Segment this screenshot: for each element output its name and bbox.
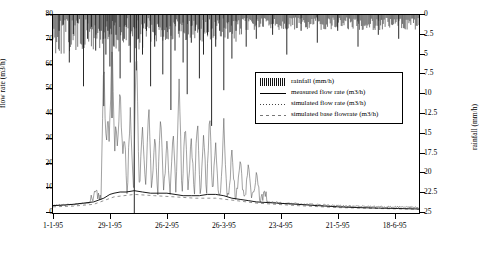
legend-key-rainfall-bar <box>260 78 286 86</box>
plot-area: rainfall (mm/h) measured flow rate (m3/h… <box>52 14 420 214</box>
x-tick-label: 29-1-95 <box>98 221 122 230</box>
y-right-tick-label: 7.5 <box>424 69 454 77</box>
legend: rainfall (mm/h) measured flow rate (m3/h… <box>255 72 403 124</box>
legend-item-measured-flow: measured flow rate (m3/h) <box>260 87 398 98</box>
y-axis-left-label: flow rate (m3/h) <box>0 59 7 108</box>
x-tick-mark <box>281 214 282 219</box>
x-tick-mark <box>338 214 339 219</box>
y-right-tick-label: 10 <box>424 89 454 97</box>
x-tick-label: 21-5-95 <box>326 221 350 230</box>
legend-label-base-flow: simulated base flowrate (m3/h) <box>291 109 378 120</box>
legend-key-simulated-line <box>260 100 286 108</box>
y-right-tick-label: 15 <box>424 129 454 137</box>
x-tick-label: 26-2-95 <box>155 221 179 230</box>
legend-item-simulated-flow: simulated flow rate (m3/h) <box>260 98 398 109</box>
x-tick-mark <box>224 214 225 219</box>
y-right-tick-label: 12.5 <box>424 109 454 117</box>
legend-item-base-flow: simulated base flowrate (m3/h) <box>260 109 398 120</box>
legend-label-simulated-flow: simulated flow rate (m3/h) <box>291 98 366 109</box>
x-tick-mark <box>395 214 396 219</box>
legend-item-rainfall: rainfall (mm/h) <box>260 76 398 87</box>
legend-label-rainfall: rainfall (mm/h) <box>291 76 334 87</box>
legend-key-measured-line <box>260 89 286 97</box>
x-tick-label: 18-6-95 <box>383 221 407 230</box>
y-right-tick-label: 20 <box>424 168 454 176</box>
y-right-tick-label: 5 <box>424 50 454 58</box>
x-tick-label: 23-4-95 <box>269 221 293 230</box>
y-right-tick-label: 2.5 <box>424 30 454 38</box>
x-tick-mark <box>167 214 168 219</box>
y-right-tick-label: 0 <box>424 10 454 18</box>
x-tick-mark <box>53 214 54 219</box>
y-right-tick-label: 25 <box>424 208 454 216</box>
y-right-tick-label: 17.5 <box>424 149 454 157</box>
x-tick-mark <box>110 214 111 219</box>
x-tick-label: 1-1-95 <box>43 221 63 230</box>
legend-key-baseflow-line <box>260 111 286 119</box>
y-right-tick-label: 22.5 <box>424 188 454 196</box>
x-tick-label: 26-3-95 <box>212 221 236 230</box>
y-axis-right-label: rainfall (mm/h) <box>470 104 479 150</box>
legend-label-measured-flow: measured flow rate (m3/h) <box>291 87 365 98</box>
